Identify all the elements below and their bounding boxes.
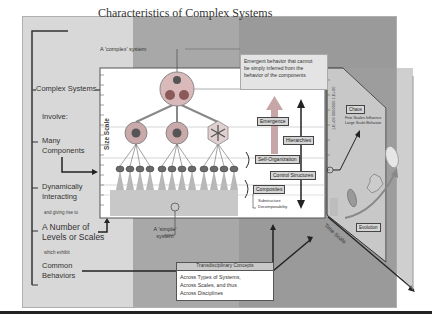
size-scale-axis-label: Size Scale [104,118,110,150]
decomposability-label: Decomposability [258,204,287,210]
which-exhibit-label: which exhibit [44,248,70,257]
transdisciplinary-line: Across Disciplines [180,290,223,296]
involve-label: Involve: [42,112,68,121]
self-organization-label: Self-Organization [255,155,300,164]
time-axis-ticks: 1.E+06 0000000 1.E+00 [331,87,337,130]
transdisciplinary-line: Across Types of Systems, [180,274,241,280]
chaos-note-line2: Large Scale Behavior [345,120,381,126]
emergent-note-box: Emergent behavior that cannot be simply … [240,54,328,90]
interacting-label: Interacting [42,192,77,201]
hierarchies-label: Hierarchies [283,136,314,145]
composites-label: Composites [253,185,285,194]
complex-system-label: A 'complex' system [100,46,146,52]
many-label: Many [42,136,60,145]
levels-or-scales-label: Levels or Scales [42,232,104,242]
giving-rise-label: and giving rise to [44,208,78,217]
emergent-note-line: Emergent behavior that cannot [244,58,312,64]
evolution-label: Evolution [356,223,381,232]
chaos-label: Chaos [346,105,365,114]
number-of-label: A Number of [42,222,89,232]
components-label: Components [42,146,85,155]
transdisciplinary-line: Across Scales, and thus [180,282,237,288]
bottom-divider [0,311,432,314]
emergent-note-line: behavior of the components [244,72,306,78]
subsystem-flower-icon [125,122,147,144]
simple-system-label-line2: system [150,233,180,239]
transdisciplinary-header: Transdisciplinary Concepts [177,263,273,271]
behaviors-label: Behaviors [42,271,75,280]
dynamically-label: Dynamically [42,182,82,191]
simple-system-label: A 'simple' [150,226,180,232]
subsystem-flower-icon [166,122,188,144]
emergent-note-line: be simply inferred from the [244,65,303,71]
common-label: Common [42,261,72,270]
control-structures-label: Control Structures [270,171,316,180]
emergence-label: Emergence [257,117,289,126]
transdisciplinary-box: Transdisciplinary Concepts Across Types … [176,262,274,301]
complex-systems-heading: Complex Systems [36,84,96,93]
